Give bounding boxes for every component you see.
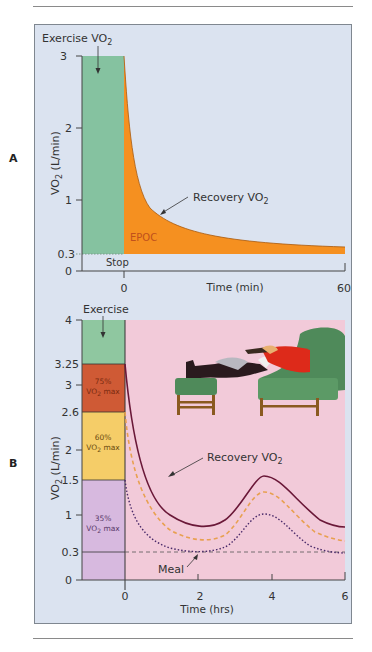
a-ytick-03: 0.3 — [58, 248, 76, 261]
b-xlabel: Time (hrs) — [179, 603, 234, 615]
a-exercise-label: Exercise VO2 — [42, 32, 112, 47]
a-xtick-0: 0 — [121, 282, 128, 295]
b-ytick-0: 0 — [65, 574, 72, 587]
a-epoc-label: EPOC — [130, 232, 157, 243]
a-ytick-0: 0 — [65, 265, 72, 278]
a-ytick-2: 2 — [65, 122, 72, 135]
b-meal-label: Meal — [158, 563, 184, 576]
b-ytick-26: 2.6 — [62, 406, 80, 419]
b-xtick-6: 6 — [342, 590, 349, 603]
a-ytick-1: 1 — [65, 194, 72, 207]
band-60-unit: VO2 max — [86, 443, 120, 453]
band-35-pct: 35% — [95, 514, 112, 523]
b-exercise-label: Exercise — [83, 303, 129, 316]
band-75-pct: 75% — [95, 377, 112, 386]
band-60-pct: 60% — [95, 433, 112, 442]
epoc-area — [124, 56, 345, 254]
b-ytick-1: 1 — [65, 509, 72, 522]
a-recovery-label: Recovery VO2 — [193, 191, 269, 206]
b-ytick-03: 0.3 — [62, 546, 80, 559]
b-ytick-2: 2 — [65, 444, 72, 457]
a-ylabel: VO2 (L/min) — [49, 131, 64, 195]
b-ytick-4: 4 — [65, 314, 72, 327]
b-xtick-4: 4 — [269, 590, 276, 603]
panel-a-chart: 3 2 1 0.3 0 0 60 Time (min) VO2 (L/min) … — [42, 32, 351, 295]
b-ylabel: VO2 (L/min) — [49, 436, 64, 500]
b-ytick-3: 3 — [65, 379, 72, 392]
a-xtick-60: 60 — [337, 282, 351, 295]
chart-canvas: 3 2 1 0.3 0 0 60 Time (min) VO2 (L/min) … — [0, 0, 372, 652]
band-exercise — [82, 320, 125, 364]
b-xtick-2: 2 — [197, 590, 204, 603]
band-75-unit: VO2 max — [86, 387, 120, 397]
panel-b-chart: 75% VO2 max 60% VO2 max 35% VO2 max — [49, 303, 349, 615]
a-xlabel: Time (min) — [205, 281, 263, 293]
b-xtick-0: 0 — [122, 590, 129, 603]
b-ytick-325: 3.25 — [55, 358, 80, 371]
band-35-unit: VO2 max — [86, 524, 120, 534]
a-stop-label: Stop — [106, 257, 129, 268]
b-ytick-15: 1.5 — [62, 474, 80, 487]
b-recovery-label: Recovery VO2 — [207, 451, 283, 466]
exercise-area — [82, 56, 124, 254]
a-ytick-3: 3 — [60, 50, 67, 63]
